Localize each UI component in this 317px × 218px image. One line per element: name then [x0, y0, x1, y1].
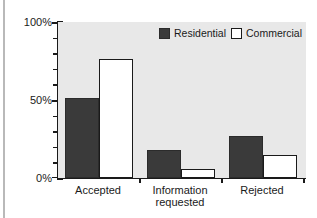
y-tick-30	[53, 131, 58, 133]
legend-entry-residential: Residential	[159, 28, 226, 39]
y-tick-90	[53, 38, 58, 40]
x-tick-group-divider-2	[221, 178, 223, 183]
x-axis-label-rejected: Rejected	[221, 184, 303, 196]
x-axis-label-information-requested-line-2: requested	[139, 196, 221, 208]
y-tick-100	[52, 22, 58, 24]
y-axis-label-100: 100%	[14, 17, 52, 28]
x-axis-label-accepted-line-1: Accepted	[57, 184, 139, 196]
y-tick-70	[53, 69, 58, 71]
bar-chart-figure: 100% 50% 0%	[0, 0, 317, 218]
legend-label-commercial: Commercial	[246, 28, 302, 39]
x-axis-label-rejected-line-1: Rejected	[221, 184, 303, 196]
bar-residential-rejected	[229, 136, 263, 178]
x-tick-group-divider-3	[303, 178, 305, 183]
bar-commercial-rejected	[263, 155, 297, 178]
page-edge-rule	[3, 0, 5, 218]
x-axis-label-accepted: Accepted	[57, 184, 139, 196]
y-tick-20	[53, 147, 58, 149]
y-axis-label-50: 50%	[14, 95, 52, 106]
bar-commercial-accepted	[99, 59, 133, 178]
legend-label-residential: Residential	[174, 28, 226, 39]
x-tick-group-divider-1	[139, 178, 141, 183]
y-tick-10	[53, 162, 58, 164]
y-tick-80	[53, 53, 58, 55]
x-axis-label-information-requested-line-1: Information	[139, 184, 221, 196]
legend-entry-commercial: Commercial	[231, 28, 302, 39]
legend-swatch-commercial-icon	[231, 28, 242, 39]
legend-swatch-residential-icon	[159, 28, 170, 39]
y-tick-0	[52, 177, 58, 179]
y-tick-50	[52, 100, 58, 102]
x-axis-label-information-requested: Information requested	[139, 184, 221, 208]
bar-commercial-information-requested	[181, 169, 215, 178]
chart-legend: Residential Commercial	[159, 28, 302, 39]
bar-residential-information-requested	[147, 150, 181, 178]
y-tick-40	[53, 116, 58, 118]
bar-residential-accepted	[65, 98, 99, 178]
y-axis-label-0: 0%	[14, 173, 52, 184]
plot-area: Residential Commercial	[57, 22, 306, 179]
y-axis-bottom-cap	[57, 178, 63, 180]
y-tick-60	[53, 84, 58, 86]
